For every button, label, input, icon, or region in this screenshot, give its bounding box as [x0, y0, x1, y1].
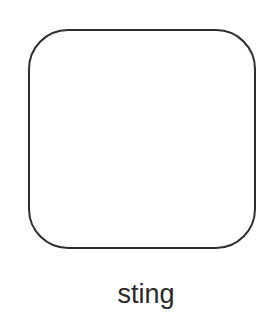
rounded-square-shape [28, 29, 256, 249]
shape-label: sting [0, 278, 273, 310]
